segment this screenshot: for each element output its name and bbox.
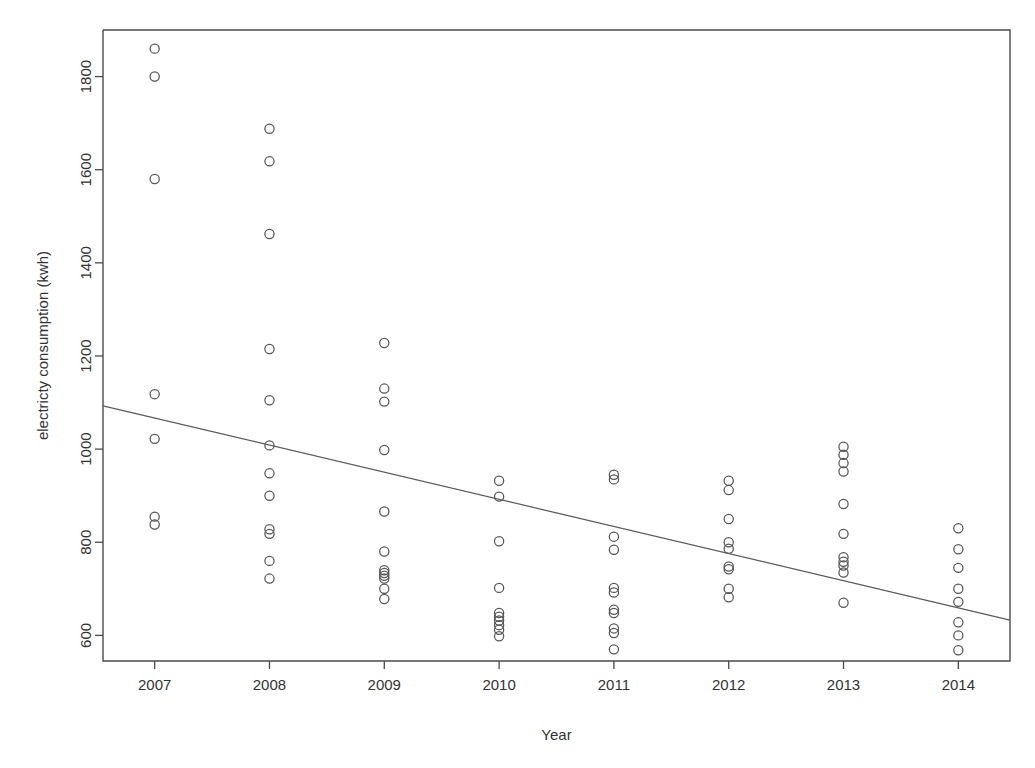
scatter-point xyxy=(609,532,618,541)
y-tick-label: 1000 xyxy=(78,432,95,465)
scatter-point xyxy=(839,499,848,508)
scatter-point xyxy=(380,584,389,593)
y-tick-label: 800 xyxy=(78,530,95,555)
x-axis-title: Year xyxy=(541,726,571,743)
y-tick-label: 1800 xyxy=(78,60,95,93)
scatter-point xyxy=(954,597,963,606)
scatter-point xyxy=(724,485,733,494)
x-tick-label: 2013 xyxy=(827,676,860,693)
scatter-point xyxy=(380,547,389,556)
scatter-plot-figure: 20072008200920102011201220132014 6008001… xyxy=(0,0,1035,768)
scatter-point xyxy=(954,631,963,640)
scatter-point xyxy=(380,338,389,347)
plot-frame xyxy=(103,30,1010,661)
scatter-point xyxy=(265,124,274,133)
scatter-point xyxy=(265,229,274,238)
scatter-point xyxy=(265,556,274,565)
x-tick-label: 2012 xyxy=(712,676,745,693)
scatter-point xyxy=(954,646,963,655)
scatter-point xyxy=(494,632,503,641)
scatter-point xyxy=(494,583,503,592)
regression-line xyxy=(103,406,1010,620)
scatter-point xyxy=(150,174,159,183)
x-tick-label: 2011 xyxy=(598,676,630,693)
scatter-point xyxy=(954,563,963,572)
scatter-point xyxy=(839,529,848,538)
scatter-point xyxy=(954,584,963,593)
scatter-point xyxy=(839,598,848,607)
y-tick-label: 1200 xyxy=(78,339,95,372)
trend-line xyxy=(103,406,1010,620)
data-points xyxy=(150,44,963,655)
scatter-point xyxy=(380,445,389,454)
scatter-point xyxy=(265,396,274,405)
scatter-point xyxy=(954,524,963,533)
scatter-point xyxy=(380,384,389,393)
scatter-point xyxy=(265,574,274,583)
x-tick-label: 2008 xyxy=(253,676,286,693)
scatter-point xyxy=(380,507,389,516)
y-axis-ticks: 60080010001200140016001800 xyxy=(78,60,104,648)
x-tick-label: 2009 xyxy=(368,676,401,693)
y-tick-label: 1400 xyxy=(78,246,95,279)
y-tick-label: 600 xyxy=(78,623,95,648)
x-tick-label: 2007 xyxy=(138,676,171,693)
scatter-point xyxy=(380,594,389,603)
x-axis-ticks: 20072008200920102011201220132014 xyxy=(138,661,975,693)
scatter-point xyxy=(380,397,389,406)
x-tick-label: 2010 xyxy=(482,676,515,693)
scatter-point xyxy=(724,476,733,485)
scatter-point xyxy=(954,545,963,554)
scatter-point xyxy=(954,618,963,627)
plot-canvas: 20072008200920102011201220132014 6008001… xyxy=(0,0,1035,768)
scatter-point xyxy=(724,514,733,523)
y-tick-label: 1600 xyxy=(78,153,95,186)
scatter-point xyxy=(494,537,503,546)
y-axis-title: electricty consumption (kwh) xyxy=(34,251,51,440)
scatter-point xyxy=(265,469,274,478)
scatter-point xyxy=(839,568,848,577)
scatter-point xyxy=(609,645,618,654)
scatter-point xyxy=(265,157,274,166)
scatter-point xyxy=(150,44,159,53)
scatter-point xyxy=(494,476,503,485)
scatter-point xyxy=(724,544,733,553)
x-tick-label: 2014 xyxy=(942,676,975,693)
scatter-point xyxy=(150,390,159,399)
scatter-point xyxy=(265,491,274,500)
scatter-point xyxy=(609,545,618,554)
scatter-point xyxy=(150,434,159,443)
scatter-point xyxy=(150,72,159,81)
scatter-point xyxy=(265,344,274,353)
